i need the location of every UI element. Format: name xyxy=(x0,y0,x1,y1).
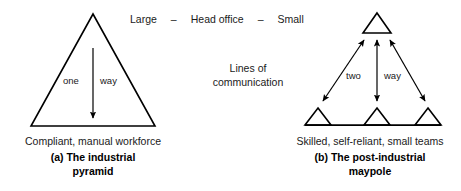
maypole-caption-line1: (b) The post-industrial xyxy=(315,151,426,163)
figure-container: Large – Head office – Small Lines of com… xyxy=(0,0,461,191)
header-separator-1: – xyxy=(157,13,191,25)
maypole-node-triangle-center xyxy=(364,108,390,125)
industrial-pyramid-caption-line2: pyramid xyxy=(73,165,114,177)
industrial-pyramid-caption-line1: (a) The industrial xyxy=(51,151,136,163)
one-way-label-right: way xyxy=(99,75,118,86)
header-label-small: Small xyxy=(277,13,303,25)
maypole-description: Skilled, self-reliant, small teams xyxy=(296,135,443,147)
center-note-line1: Lines of xyxy=(230,62,267,74)
two-way-label-right: way xyxy=(383,70,402,81)
maypole-hub-triangle xyxy=(363,13,391,33)
one-way-label-left: one xyxy=(62,75,80,86)
industrial-pyramid-description: Compliant, manual workforce xyxy=(25,135,161,147)
maypole-node-triangle-left xyxy=(305,108,331,125)
header-row: Large – Head office – Small xyxy=(130,13,304,25)
header-label-large: Large xyxy=(130,13,157,25)
two-way-label-left: two xyxy=(345,70,362,81)
center-note-line2: communication xyxy=(213,76,284,88)
header-separator-2: – xyxy=(244,13,278,25)
header-label-head-office: Head office xyxy=(191,13,244,25)
maypole-caption-line2: maypole xyxy=(349,165,392,177)
maypole-node-triangle-right xyxy=(415,108,441,125)
